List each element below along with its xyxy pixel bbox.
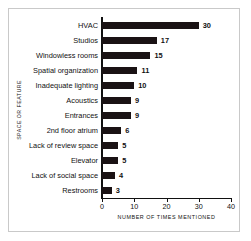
- bar-category-label: Lack of social space: [31, 168, 98, 183]
- bar-row: Acoustics9: [0, 93, 251, 108]
- bar-category-label: Spatial organization: [33, 63, 98, 78]
- bar-value-label: 9: [135, 93, 139, 108]
- bar-row: Entrances9: [0, 108, 251, 123]
- bar-row: Spatial organization11: [0, 63, 251, 78]
- bar-row: Lack of social space4: [0, 168, 251, 183]
- bar-row: Elevator5: [0, 153, 251, 168]
- bar-category-label: Restrooms: [62, 183, 98, 198]
- bar: [102, 187, 112, 195]
- bar-category-label: Windowless rooms: [36, 48, 98, 63]
- bar-value-label: 17: [161, 33, 169, 48]
- bar: [102, 52, 150, 60]
- bar: [102, 127, 121, 135]
- bar-value-label: 30: [203, 18, 211, 33]
- bar-category-label: 2nd floor atrium: [47, 123, 98, 138]
- x-axis-title: NUMBER OF TIMES MENTIONED: [101, 214, 232, 220]
- bar-category-label: HVAC: [78, 18, 98, 33]
- bar-category-label: Lack of review space: [29, 138, 98, 153]
- bar-row: Studios17: [0, 33, 251, 48]
- bar: [102, 97, 131, 105]
- bar-category-label: Acoustics: [66, 93, 98, 108]
- bar: [102, 172, 115, 180]
- bar: [102, 82, 134, 90]
- bar: [102, 37, 157, 45]
- bar-chart: SPACE OR FEATURE HVAC30Studios17Windowle…: [0, 0, 251, 241]
- bar-value-label: 9: [135, 108, 139, 123]
- bar-row: 2nd floor atrium6: [0, 123, 251, 138]
- bar-row: Inadequate lighting10: [0, 78, 251, 93]
- bar-value-label: 6: [125, 123, 129, 138]
- bar-value-label: 5: [122, 138, 126, 153]
- figure: SPACE OR FEATURE HVAC30Studios17Windowle…: [0, 0, 251, 241]
- bar-category-label: Entrances: [65, 108, 98, 123]
- x-axis-tick-label: 10: [130, 202, 138, 211]
- bar-value-label: 4: [119, 168, 123, 183]
- bar-row: Restrooms3: [0, 183, 251, 198]
- bar-category-label: Inadequate lighting: [36, 78, 98, 93]
- x-axis-tick-label: 0: [100, 202, 104, 211]
- bar-row: HVAC30: [0, 18, 251, 33]
- bar: [102, 22, 199, 30]
- bar-value-label: 5: [122, 153, 126, 168]
- bar: [102, 157, 118, 165]
- bar-category-label: Studios: [73, 33, 98, 48]
- bar-value-label: 10: [138, 78, 146, 93]
- x-axis-tick-label: 30: [195, 202, 203, 211]
- bar-row: Windowless rooms15: [0, 48, 251, 63]
- bar: [102, 67, 137, 75]
- bar-value-label: 11: [141, 63, 149, 78]
- bar: [102, 112, 131, 120]
- bar-value-label: 3: [116, 183, 120, 198]
- x-axis-tick-label: 20: [163, 202, 171, 211]
- bar-category-label: Elevator: [71, 153, 98, 168]
- bar: [102, 142, 118, 150]
- x-axis-tick-label: 40: [227, 202, 235, 211]
- bar-value-label: 15: [154, 48, 162, 63]
- bar-row: Lack of review space5: [0, 138, 251, 153]
